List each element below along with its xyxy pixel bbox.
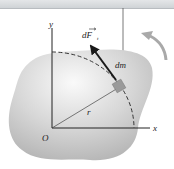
force-subscript: t <box>97 36 99 41</box>
y-axis-label: y <box>48 19 53 29</box>
radius-label: r <box>87 107 91 117</box>
origin-label: O <box>42 133 49 143</box>
rigid-body <box>9 49 153 160</box>
rotation-arrow-icon <box>150 36 166 60</box>
rigid-body-diagram: y x O r dm dF t <box>0 0 174 169</box>
x-axis-label: x <box>152 123 157 133</box>
mass-element-label: dm <box>115 60 127 70</box>
force-label: dF <box>82 30 93 40</box>
